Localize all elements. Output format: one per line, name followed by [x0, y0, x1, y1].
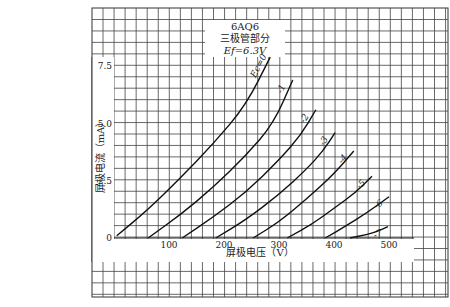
- chart-condition: Ef=6.3V: [223, 45, 268, 56]
- x-tick: 500: [380, 240, 397, 250]
- x-tick: 400: [325, 240, 342, 250]
- y-axis-label: 屏极电流（mA）: [94, 117, 106, 194]
- y-tick: 0: [106, 233, 112, 243]
- x-axis-label: 屏极电压（V）: [226, 246, 293, 258]
- tube-characteristic-chart: Ec=0-1-2-3-4-5-6-7 100200300400500 02.55…: [0, 0, 450, 307]
- chart-title: 6AQ6: [231, 21, 259, 32]
- y-tick: 7.5: [98, 61, 113, 71]
- chart-subtitle: 三极管部分: [220, 32, 270, 44]
- x-tick: 100: [160, 240, 177, 250]
